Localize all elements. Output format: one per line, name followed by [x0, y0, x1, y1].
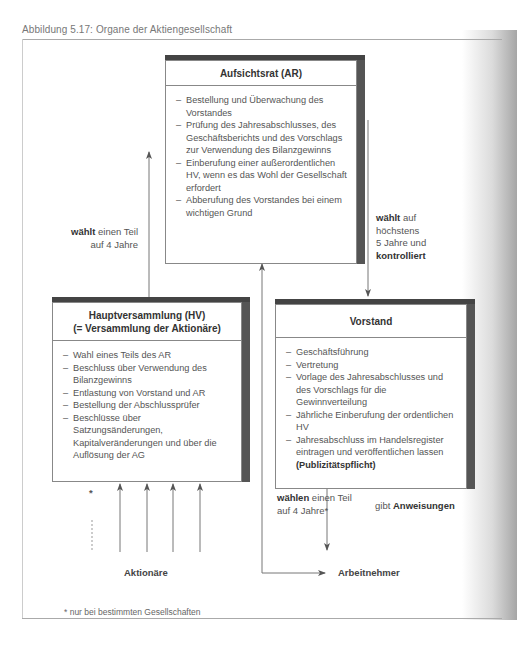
list-item: Wahl eines Teils des AR: [63, 349, 233, 362]
label-text: einen Teil: [95, 226, 138, 237]
asterisk-mark: *: [89, 487, 93, 500]
vorstand-box: Vorstand Geschäftsführung Vertretung Vor…: [275, 304, 467, 489]
label-text: einen Teil: [309, 492, 352, 503]
list-item: Entlastung von Vorstand und AR: [63, 387, 233, 400]
label-bold: wählt: [71, 226, 95, 237]
list-item: Bestellung und Überwachung des Vorstande…: [176, 94, 348, 119]
vorstand-list: Geschäftsführung Vertretung Vorlage des …: [276, 338, 466, 479]
hauptversammlung-title-line1: Hauptversammlung (HV): [57, 309, 237, 322]
label-bold: Anweisungen: [393, 500, 455, 511]
label-bold: kontrolliert: [376, 250, 426, 261]
list-item: Beschlüsse über Satzungsänderungen, Kapi…: [63, 412, 233, 462]
aufsichtsrat-title: Aufsichtsrat (AR): [166, 61, 356, 86]
aufsichtsrat-box: Aufsichtsrat (AR) Bestellung und Überwac…: [165, 60, 357, 264]
vorstand-instructs-label: gibt Anweisungen: [375, 500, 455, 513]
hauptversammlung-title: Hauptversammlung (HV) (= Versammlung der…: [53, 303, 241, 341]
list-item: Jahresabschluss im Handelsregister eintr…: [286, 434, 458, 472]
list-item: Prüfung des Jahresabschlusses, des Gesch…: [176, 119, 348, 157]
label-text: höchstens: [376, 225, 419, 236]
aktionaere-label: Aktionäre: [124, 567, 168, 580]
list-item: Geschäftsführung: [286, 346, 458, 359]
label-text: auf: [400, 212, 416, 223]
label-bold: wählen: [277, 492, 309, 503]
list-item: Abberufung des Vorstandes bei einem wich…: [176, 194, 348, 219]
hauptversammlung-list: Wahl eines Teils des AR Beschluss über V…: [53, 341, 241, 470]
label-text: 5 Jahre und: [376, 237, 426, 248]
ar-elects-vorstand-label: wählt auf höchstens 5 Jahre und kontroll…: [376, 212, 426, 262]
aufsichtsrat-list: Bestellung und Überwachung des Vorstande…: [166, 86, 356, 227]
footnote: * nur bei bestimmten Gesellschaften: [64, 606, 201, 619]
list-item: Vorlage des Jahresabschlusses und des Vo…: [286, 371, 458, 409]
label-text: auf 4 Jahre: [90, 239, 138, 250]
list-item: Beschluss über Verwendung des Bilanzgewi…: [63, 362, 233, 387]
list-item: Vertretung: [286, 359, 458, 372]
label-text: auf 4 Jahre*: [277, 505, 328, 516]
list-item: Jährliche Einberufung der ordentlichen H…: [286, 409, 458, 434]
arbeitnehmer-elect-ar-label: wählen einen Teil auf 4 Jahre*: [277, 492, 352, 517]
label-bold: wählt: [376, 212, 400, 223]
label-text: gibt: [375, 500, 393, 511]
arbeitnehmer-label: Arbeitnehmer: [338, 567, 400, 580]
hauptversammlung-box: Hauptversammlung (HV) (= Versammlung der…: [52, 302, 242, 482]
hv-elects-ar-label: wählt einen Teil auf 4 Jahre: [60, 226, 138, 251]
publizitaetspflicht-emphasis: (Publizitätspflicht): [296, 460, 376, 470]
hauptversammlung-title-line2: (= Versammlung der Aktionäre): [57, 322, 237, 335]
vorstand-title: Vorstand: [276, 305, 466, 338]
list-item: Bestellung der Abschlussprüfer: [63, 399, 233, 412]
list-item-text: Jahresabschluss im Handelsregister eintr…: [296, 435, 444, 458]
list-item: Einberufung einer außerordentlichen HV, …: [176, 157, 348, 195]
